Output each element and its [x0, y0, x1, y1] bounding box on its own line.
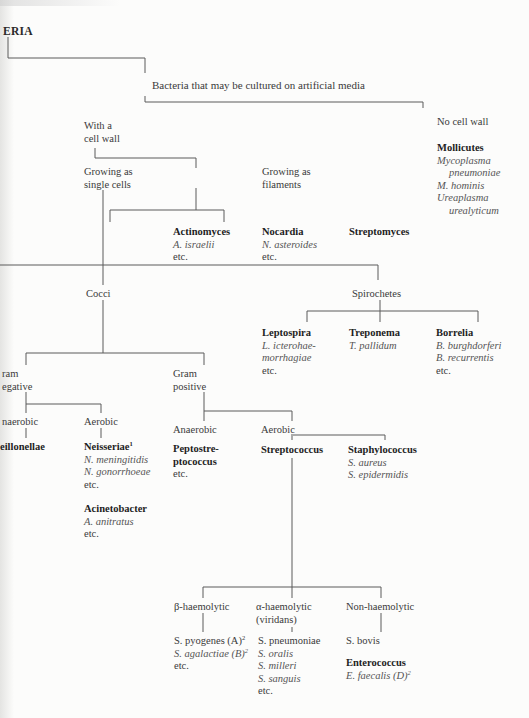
node-actinomyces: Actinomyces A. israelii etc.	[173, 226, 230, 264]
node-gram-positive: Grampositive	[173, 368, 206, 393]
node-streptomyces: Streptomyces	[349, 226, 409, 239]
node-cultured-bacteria: Bacteria that may be cultured on artific…	[152, 79, 365, 92]
node-gn-anaerobic: naerobic	[2, 416, 38, 429]
node-alpha-species: S. pneumoniae S. oralis S. milleri S. sa…	[258, 635, 320, 698]
node-alpha-haemolytic: α-haemolytic(viridans)	[256, 601, 312, 626]
node-gn-aerobic: Aerobic	[84, 416, 118, 429]
node-gram-negative: ramegative	[2, 368, 32, 393]
node-no-cell-wall: No cell wall	[437, 116, 488, 129]
node-gp-aerobic: Aerobic	[261, 424, 295, 437]
node-leptospira: Leptospira L. icterohae- morrhagiae etc.	[262, 327, 316, 377]
node-beta-species: S. pyogenes (A)2 S. agalactiae (B)2 etc.	[174, 635, 248, 673]
node-peptostreptococcus: Peptostre- ptococcus etc.	[173, 443, 219, 481]
node-nocardia: Nocardia N. asteroides etc.	[262, 226, 317, 264]
node-staphylococcus: Staphylococcus S. aureus S. epidermidis	[348, 444, 417, 482]
node-non-haemolytic: Non-haemolytic	[346, 601, 414, 614]
node-streptococcus: Streptococcus	[261, 444, 323, 457]
node-with-cell-wall: With acell wall	[84, 120, 120, 145]
node-spirochetes: Spirochetes	[352, 288, 401, 301]
node-veillonellae: eillonellae	[0, 441, 45, 454]
node-mollicutes: Mollicutes Mycoplasma pneumoniae M. homi…	[437, 142, 500, 217]
node-borrelia: Borrelia B. burghdorferi B. recurrentis …	[436, 327, 502, 377]
node-filaments: Growing asfilaments	[262, 166, 311, 191]
node-enterococcus: Enterococcus E. faecalis (D)2	[346, 657, 411, 682]
node-acinetobacter: Acinetobacter A. anitratus etc.	[84, 503, 147, 541]
node-single-cells: Growing assingle cells	[84, 166, 133, 191]
node-beta-haemolytic: β-haemolytic	[174, 601, 230, 614]
node-treponema: Treponema T. pallidum	[349, 327, 400, 352]
section-title-fragment: ERIA	[3, 25, 33, 37]
node-neisseriae: Neisseriae1 N. meningitidis N. gonorrhoe…	[84, 441, 150, 491]
node-cocci: Cocci	[86, 288, 111, 301]
node-gp-anaerobic: Anaerobic	[173, 424, 217, 437]
node-non-haem-species: S. bovis	[346, 635, 380, 648]
